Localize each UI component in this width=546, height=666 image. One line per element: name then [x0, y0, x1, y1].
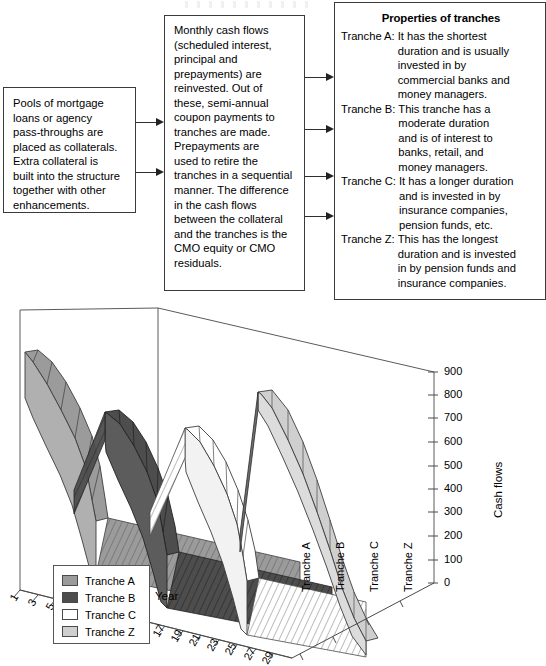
chart-legend: Tranche A Tranche B Tranche C Tranche Z: [53, 565, 150, 644]
value-tick-label: 700: [444, 411, 462, 423]
tranche-property-row: Tranche A: It has the shortest duration …: [341, 29, 541, 102]
cash-flows-box-text: Monthly cash flows (scheduled interest, …: [174, 23, 298, 270]
flow-arrow-icon: [305, 172, 334, 181]
tranche-property-row: Tranche Z: This has the longest duration…: [341, 232, 541, 290]
tranche-property-description: It has the shortest duration and is usua…: [398, 29, 541, 102]
value-tick-label: 500: [444, 459, 462, 471]
scan-bleed-artifact: [185, 1, 315, 8]
series-axis-label-tranche-c: Tranche C: [368, 541, 380, 592]
value-tick-label: 300: [444, 505, 462, 517]
legend-item-tranche-b: Tranche B: [62, 589, 149, 606]
legend-label-tranche-c: Tranche C: [85, 609, 136, 621]
flow-arrow-icon: [305, 125, 334, 134]
tranche-property-label: Tranche B:: [341, 102, 398, 175]
value-tick-label: 100: [444, 553, 462, 565]
flow-arrow-icon: [305, 212, 334, 221]
collateral-box-text: Pools of mortgage loans or agency pass-t…: [13, 96, 128, 212]
series-axis-label-tranche-a: Tranche A: [300, 542, 312, 592]
tranche-property-description: This tranche has a moderate duration and…: [398, 102, 541, 175]
legend-label-tranche-b: Tranche B: [85, 592, 135, 604]
legend-label-tranche-z: Tranche Z: [85, 626, 135, 638]
value-tick-label: 900: [444, 365, 462, 377]
legend-swatch-tranche-c: [62, 609, 78, 620]
cash-flow-3d-chart: 900 800 700 600 500 400 300 200 100 0 Ca…: [0, 300, 539, 663]
flow-arrow-icon: [305, 73, 334, 82]
flow-arrow-icon: [136, 118, 164, 127]
legend-item-tranche-a: Tranche A: [62, 572, 149, 589]
legend-swatch-tranche-b: [62, 592, 78, 603]
properties-box-title: Properties of tranches: [341, 11, 541, 26]
tranche-property-row: Tranche C: It has a longer duration and …: [341, 174, 541, 232]
legend-item-tranche-c: Tranche C: [62, 606, 149, 623]
value-axis-ticks: [428, 372, 438, 583]
legend-item-tranche-z: Tranche Z: [62, 623, 149, 640]
value-tick-label: 200: [444, 529, 462, 541]
year-axis-title: Year: [155, 590, 178, 602]
legend-swatch-tranche-z: [62, 626, 78, 637]
tranche-property-label: Tranche C:: [341, 174, 399, 232]
legend-label-tranche-a: Tranche A: [85, 575, 135, 587]
tranche-property-label: Tranche A:: [341, 29, 398, 102]
collateral-box: Pools of mortgage loans or agency pass-t…: [3, 87, 136, 213]
legend-swatch-tranche-a: [62, 575, 78, 586]
value-tick-label: 0: [444, 576, 450, 588]
cash-flows-box: Monthly cash flows (scheduled interest, …: [164, 15, 305, 291]
flow-arrow-icon: [136, 168, 164, 177]
tranche-property-description: This has the longest duration and is inv…: [398, 232, 541, 290]
value-axis-title: Cash flows: [492, 462, 504, 518]
value-tick-label: 400: [444, 482, 462, 494]
value-tick-label: 600: [444, 435, 462, 447]
series-axis-label-tranche-b: Tranche B: [334, 542, 346, 592]
series-axis-label-tranche-z: Tranche Z: [402, 542, 414, 592]
value-tick-label: 800: [444, 388, 462, 400]
properties-of-tranches-box: Properties of tranches Tranche A: It has…: [334, 2, 546, 300]
tranche-property-description: It has a longer duration and is invested…: [399, 174, 541, 232]
tranche-property-row: Tranche B: This tranche has a moderate d…: [341, 102, 541, 175]
cmo-flow-diagram: Pools of mortgage loans or agency pass-t…: [0, 0, 539, 305]
tranche-property-label: Tranche Z:: [341, 232, 398, 290]
